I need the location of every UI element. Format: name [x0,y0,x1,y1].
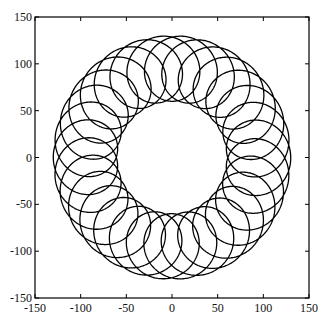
x-tick-label: 100 [254,301,272,315]
x-tick-label: -50 [118,301,134,315]
x-tick-label: 150 [300,301,318,315]
y-tick-label: 0 [26,151,32,165]
chart: -150 -100 -50 0 50 100 150 -150 -100 -50… [0,0,329,327]
y-tick-label: -150 [10,291,32,305]
y-tick-label: 50 [20,104,32,118]
y-tick-label: -50 [16,197,32,211]
x-tick-label: 50 [212,301,224,315]
y-tick-label: 150 [14,10,32,24]
x-tick-labels: -150 -100 -50 0 50 100 150 [24,301,318,315]
y-tick-labels: -150 -100 -50 0 50 100 150 [10,10,32,305]
y-tick-label: -100 [10,244,32,258]
axes-frame [35,17,309,298]
curve [53,36,290,279]
curve-line [53,36,290,279]
x-tick-label: 0 [169,301,175,315]
axis-ticks [35,17,309,298]
x-tick-label: -100 [70,301,92,315]
y-tick-label: 100 [14,57,32,71]
